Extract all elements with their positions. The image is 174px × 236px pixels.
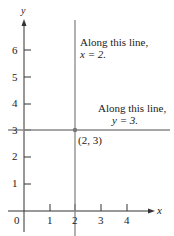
y-tick-label-3: 3 — [12, 125, 18, 136]
y-axis-arrow-icon — [22, 19, 27, 26]
y-tick-label-5: 5 — [12, 72, 18, 83]
horizontal-line-annotation-line2: y = 3. — [98, 114, 166, 126]
x-tick-label-1: 1 — [47, 215, 53, 226]
vertical-line-annotation-line1: Along this line, — [80, 36, 148, 48]
horizontal-line-annotation: Along this line, y = 3. — [98, 102, 166, 126]
y-tick-label-2: 2 — [12, 151, 18, 162]
intersection-point-label: (2, 3) — [78, 134, 102, 146]
y-tick-label-4: 4 — [12, 98, 18, 109]
y-axis-label: y — [21, 5, 25, 17]
x-axis-label: x — [157, 204, 162, 216]
vertical-line-annotation-line2: x = 2. — [80, 48, 148, 60]
x-ticks — [50, 204, 127, 211]
origin-label: 0 — [14, 215, 20, 226]
x-tick-label-3: 3 — [98, 215, 104, 226]
x-tick-label-2: 2 — [72, 215, 78, 226]
x-axis-arrow-icon — [148, 209, 155, 214]
y-ticks — [24, 50, 31, 184]
vertical-line-annotation: Along this line, x = 2. — [80, 36, 148, 60]
horizontal-line-annotation-line1: Along this line, — [98, 102, 166, 114]
y-tick-label-6: 6 — [12, 45, 18, 56]
y-tick-label-1: 1 — [12, 178, 18, 189]
intersection-point-marker — [73, 128, 77, 132]
x-tick-label-4: 4 — [124, 215, 130, 226]
